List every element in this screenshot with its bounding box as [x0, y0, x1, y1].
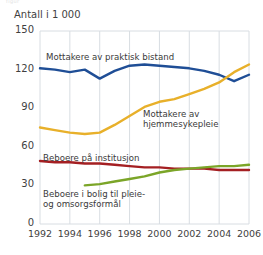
y-axis-tick-label: 60 — [2, 140, 34, 151]
y-axis-tick-label: 120 — [2, 63, 34, 74]
y-axis-tick-label: 150 — [2, 24, 34, 35]
y-axis-tick-label: 0 — [2, 217, 34, 228]
line-chart: figur Antall i 1 000 0306090120150 19921… — [0, 0, 263, 255]
x-axis-tick-label: 2006 — [232, 228, 263, 239]
y-axis-tick-label: 90 — [2, 101, 34, 112]
series-label-bolig: Beboere i bolig til pleie- og omsorgsfor… — [43, 190, 145, 210]
cropped-figure-caption: figur — [6, 0, 20, 4]
y-axis-title: Antall i 1 000 — [14, 9, 81, 20]
series-line — [40, 64, 249, 81]
series-label-bistand: Mottakere av praktisk bistand — [46, 53, 174, 63]
series-label-hjemmesykepleie: Mottakere av hjemmesykepleie — [143, 110, 218, 130]
series-label-institusjon: Beboere på institusjon — [43, 154, 139, 164]
y-axis-tick-label: 30 — [2, 178, 34, 189]
